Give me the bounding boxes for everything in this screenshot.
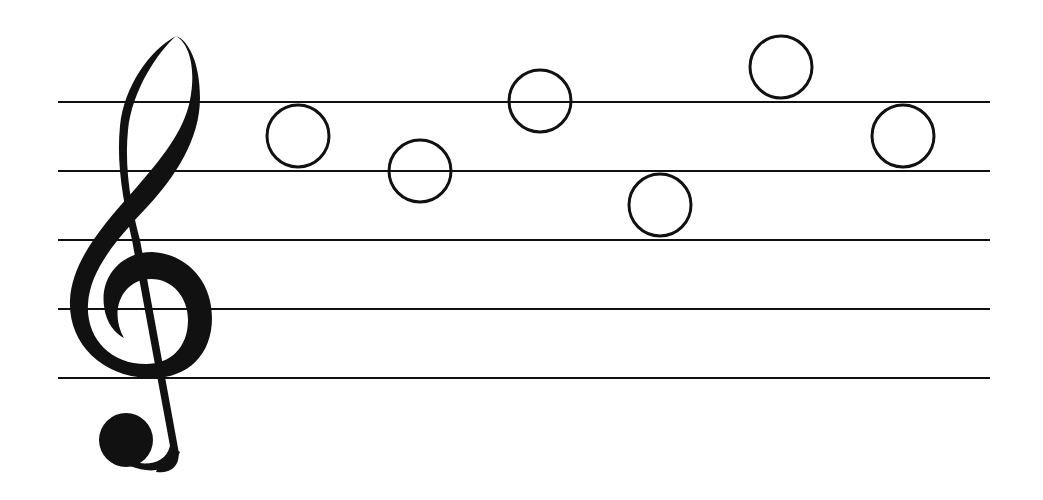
note-head-4	[629, 174, 691, 236]
note-head-1	[267, 105, 329, 167]
note-head-6	[872, 105, 934, 167]
note-head-5	[750, 36, 812, 98]
notes	[267, 36, 934, 236]
music-staff-diagram	[0, 0, 1043, 500]
